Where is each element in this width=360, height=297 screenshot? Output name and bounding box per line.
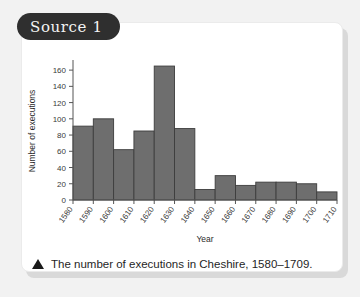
bar-1620 [154,66,174,200]
x-tick-label: 1650 [199,205,217,225]
x-axis-title: Year [196,234,213,244]
bar-1690 [296,184,316,200]
x-tick-label: 1710 [321,205,339,225]
bar-1640 [195,189,215,200]
y-tick-label: 120 [53,99,67,108]
bar-1590 [93,119,113,200]
bar-1670 [256,182,276,200]
x-tick-label: 1590 [77,205,95,225]
bar-1700 [317,192,337,200]
bar-1580 [73,126,93,200]
bar-1680 [276,182,296,200]
triangle-up-icon [32,259,44,269]
bar-1650 [215,176,235,200]
bars-group [73,66,337,200]
x-tick-label: 1640 [179,205,197,225]
x-tick-label: 1700 [301,205,319,225]
x-tick-label: 1680 [260,205,278,225]
bar-1610 [134,131,154,200]
bar-1630 [175,129,195,200]
y-tick-label: 160 [53,66,67,75]
x-tick-label: 1610 [118,205,136,225]
caption-text: The number of executions in Cheshire, 15… [51,258,312,270]
chart-svg: 020406080100120140160 158015901600161016… [21,48,343,248]
bar-1600 [114,150,134,200]
y-tick-label: 60 [57,147,66,156]
x-tick-label: 1670 [240,205,258,225]
x-tick-label: 1580 [57,205,75,225]
source-label-pill: Source 1 [17,13,120,40]
x-tick-label: 1620 [138,205,156,225]
source-label-text: Source 1 [30,18,103,36]
x-tick-label: 1690 [280,205,298,225]
y-tick-label: 0 [62,196,67,205]
y-tick-label: 100 [53,115,67,124]
y-axis-title: Number of executions [27,90,37,173]
bar-1660 [235,185,255,200]
x-tick-label: 1630 [159,205,177,225]
y-tick-label: 40 [57,164,66,173]
y-axis-ticks: 020406080100120140160 [53,66,73,205]
executions-bar-chart: 020406080100120140160 158015901600161016… [21,48,343,248]
x-axis-ticks: 1580159016001610162016301640165016601670… [57,200,339,225]
y-tick-label: 140 [53,82,67,91]
y-tick-label: 80 [57,131,66,140]
figure-caption: The number of executions in Cheshire, 15… [32,258,332,270]
x-tick-label: 1660 [220,205,238,225]
y-tick-label: 20 [57,180,66,189]
x-tick-label: 1600 [98,205,116,225]
